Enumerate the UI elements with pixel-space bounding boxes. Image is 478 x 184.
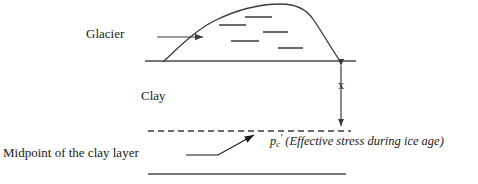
glacier-outline	[163, 4, 340, 62]
effective-stress-label: pc' (Effective stress during ice age)	[270, 133, 444, 148]
midpoint-label: Midpoint of the clay layer	[3, 146, 139, 159]
depth-label: x	[338, 79, 344, 91]
glacier-label: Glacier	[86, 27, 124, 40]
ice-layer-dashes	[219, 17, 303, 48]
stress-prime-mark: '	[280, 132, 282, 143]
diagram-canvas: Glacier Clay x Midpoint of the clay laye…	[0, 0, 478, 184]
clay-label: Clay	[141, 89, 166, 102]
stress-description: (Effective stress during ice age)	[285, 134, 444, 148]
midpoint-leader-line	[186, 135, 254, 155]
